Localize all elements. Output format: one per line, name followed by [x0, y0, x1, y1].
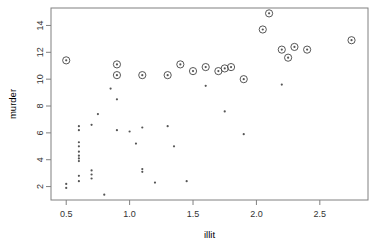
data-point: [78, 141, 80, 143]
data-point: [262, 28, 264, 30]
chart-canvas: 0.51.01.52.02.52468101214illitmurder: [0, 0, 380, 249]
data-point: [224, 67, 226, 69]
data-point: [90, 177, 92, 179]
data-point: [78, 151, 80, 153]
data-point: [167, 125, 169, 127]
data-point: [306, 49, 308, 51]
data-point: [154, 181, 156, 183]
y-tick-label: 14: [35, 20, 45, 30]
y-tick-label: 8: [35, 104, 45, 109]
data-point: [173, 145, 175, 147]
x-tick-label: 2.5: [314, 209, 327, 219]
data-point: [186, 180, 188, 182]
y-tick-label: 2: [35, 184, 45, 189]
data-point: [141, 126, 143, 128]
data-point: [97, 113, 99, 115]
data-point: [90, 169, 92, 171]
data-point: [65, 59, 67, 61]
data-point: [78, 180, 80, 182]
y-tick-label: 10: [35, 74, 45, 84]
data-point: [116, 74, 118, 76]
data-point: [78, 129, 80, 131]
data-point: [205, 66, 207, 68]
plot-frame: [51, 8, 368, 200]
data-point: [224, 110, 226, 112]
data-point: [230, 66, 232, 68]
data-point: [109, 87, 111, 89]
data-point: [141, 168, 143, 170]
data-point: [78, 175, 80, 177]
data-point: [281, 49, 283, 51]
x-tick-label: 0.5: [60, 209, 73, 219]
data-point: [103, 194, 105, 196]
y-tick-label: 12: [35, 47, 45, 57]
data-point: [281, 83, 283, 85]
data-point: [90, 124, 92, 126]
data-point: [78, 160, 80, 162]
data-point: [192, 70, 194, 72]
data-point: [268, 12, 270, 14]
data-point: [141, 171, 143, 173]
y-tick-label: 4: [35, 157, 45, 162]
x-tick-label: 2.0: [250, 209, 263, 219]
x-tick-label: 1.0: [123, 209, 136, 219]
data-point: [243, 133, 245, 135]
data-point: [135, 143, 137, 145]
data-point: [141, 74, 143, 76]
data-point: [243, 78, 245, 80]
scatter-plot-figure: 0.51.01.52.02.52468101214illitmurder: [0, 0, 380, 249]
data-point: [116, 98, 118, 100]
y-axis-title: murder: [7, 89, 18, 119]
data-point: [78, 145, 80, 147]
data-point: [129, 130, 131, 132]
x-tick-label: 1.5: [187, 209, 200, 219]
data-point: [350, 39, 352, 41]
data-point: [116, 129, 118, 131]
data-point: [167, 74, 169, 76]
data-point: [179, 63, 181, 65]
data-point: [287, 57, 289, 59]
data-point: [78, 155, 80, 157]
data-point: [293, 46, 295, 48]
x-axis-title: illit: [204, 229, 215, 240]
data-point: [65, 187, 67, 189]
y-tick-label: 6: [35, 130, 45, 135]
data-point: [65, 183, 67, 185]
data-point: [78, 125, 80, 127]
data-point: [205, 85, 207, 87]
data-point: [90, 173, 92, 175]
data-point: [116, 63, 118, 65]
data-point: [217, 70, 219, 72]
data-point: [78, 157, 80, 159]
